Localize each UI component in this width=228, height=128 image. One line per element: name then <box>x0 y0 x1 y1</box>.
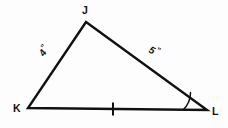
vertex-label-l: L <box>212 105 219 117</box>
vertex-label-j: J <box>82 4 88 16</box>
side-label-group-kj: 4 ” <box>35 42 52 59</box>
triangle-outline <box>28 22 207 110</box>
vertex-label-k: K <box>13 102 21 114</box>
triangle-diagram-svg: J K L 4 ” 5 ” <box>0 0 228 128</box>
geometry-figure: J K L 4 ” 5 ” <box>0 0 228 128</box>
side-label-group-jl: 5 ” <box>147 43 162 59</box>
